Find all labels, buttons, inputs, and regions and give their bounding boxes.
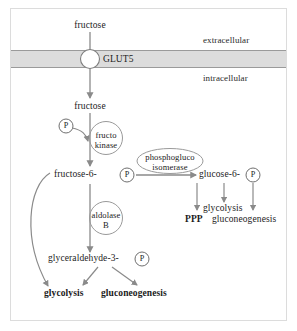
fructokinase-line1: fructo — [95, 130, 116, 140]
label-glut5: GLUT5 — [103, 54, 134, 64]
label-fructose-extracellular: fructose — [74, 20, 105, 30]
label-g6p-phosphate: P — [251, 170, 256, 179]
label-glycolysis-from-g6p: glycolysis — [203, 203, 243, 213]
label-glucose-6-phosphate: glucose-6- — [199, 169, 240, 179]
label-fructose-6-phosphate: fructose-6- — [54, 169, 97, 179]
label-glyceraldehyde-3-phosphate: glyceraldehyde-3- — [48, 253, 119, 263]
label-intracellular: intracellular — [203, 74, 248, 84]
isomerase-line2: isomerase — [152, 162, 187, 172]
label-glycolysis-bottom: glycolysis — [44, 288, 84, 298]
label-phosphoglucoisomerase: phosphogluco isomerase — [145, 153, 194, 172]
glut5-transporter-icon — [81, 50, 100, 69]
label-gluconeogenesis-from-g6p: gluconeogenesis — [212, 214, 276, 224]
label-fructose-intracellular: fructose — [74, 101, 105, 111]
pathway-figure: fructose extracellular GLUT5 intracellul… — [0, 0, 297, 331]
label-phosphate-donor: P — [64, 121, 69, 130]
aldolase-line2: B — [103, 220, 109, 230]
aldolase-line1: aldolase — [92, 210, 121, 220]
label-g3p-phosphate: P — [140, 254, 145, 263]
label-extracellular: extracellular — [203, 36, 249, 46]
fructokinase-line2: kinase — [95, 140, 118, 150]
label-gluconeogenesis-bottom: gluconeogenesis — [101, 288, 167, 298]
label-ppp: PPP — [185, 214, 203, 224]
label-aldolase-b: aldolase B — [92, 211, 121, 230]
isomerase-line1: phosphogluco — [145, 152, 194, 162]
label-fructokinase: fructo kinase — [95, 131, 118, 150]
label-f6p-phosphate: P — [125, 170, 130, 179]
